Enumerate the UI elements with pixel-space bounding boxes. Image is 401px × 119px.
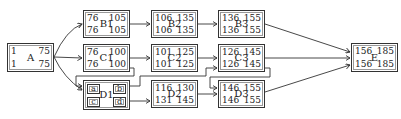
subtask-d[interactable]: d <box>113 97 126 107</box>
activity-node-c1[interactable]: 7610076100C1 <box>83 44 130 72</box>
node-name: A <box>8 53 53 63</box>
node-name: B1 <box>84 19 129 29</box>
activity-node-b2[interactable]: 106135106135B2 <box>151 10 198 38</box>
node-name: E <box>352 53 397 63</box>
activity-node-c3[interactable]: 126145126145C3 <box>218 44 265 72</box>
dependency-arrows <box>0 0 401 119</box>
node-name: D3 <box>219 89 264 99</box>
node-name: B2 <box>152 19 197 29</box>
subtask-b[interactable]: b <box>113 84 126 94</box>
node-name: C3 <box>219 53 264 63</box>
node-name: B3 <box>219 19 264 29</box>
activity-node-b3[interactable]: 136155136155B3 <box>218 10 265 38</box>
activity-node-d3[interactable]: 146155146155D3 <box>218 80 265 108</box>
subtask-c[interactable]: c <box>87 97 100 107</box>
activity-node-c2[interactable]: 101125101125C2 <box>151 44 198 72</box>
activity-node-e[interactable]: 156185156185E <box>351 43 398 72</box>
node-name: D2 <box>152 89 197 99</box>
activity-node-b1[interactable]: 7610576105B1 <box>83 10 130 38</box>
node-name: C1 <box>84 53 129 63</box>
activity-node-a[interactable]: 175175A <box>7 43 54 72</box>
activity-node-d1[interactable]: D1 abcd <box>83 80 130 110</box>
subtask-a[interactable]: a <box>87 84 100 94</box>
node-name: C2 <box>152 53 197 63</box>
activity-node-d2[interactable]: 116130131145D2 <box>151 80 198 108</box>
